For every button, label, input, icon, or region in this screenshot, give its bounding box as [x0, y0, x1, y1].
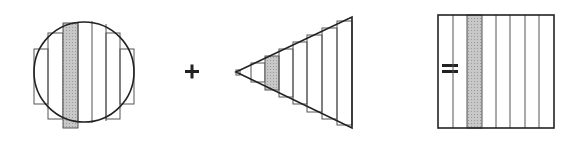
triangle-strip-2 [251, 63, 265, 82]
triangle-strip-8 [337, 21, 352, 125]
triangle-strip-4 [279, 49, 293, 97]
circle-outline [34, 22, 134, 122]
circle-strip-3-shaded [63, 23, 78, 128]
equals-sign [442, 64, 458, 73]
triangle-strip-6 [307, 35, 322, 112]
plus-sign [185, 65, 199, 79]
circle-strip-6 [106, 33, 120, 119]
circle-strip-2 [48, 33, 63, 119]
equation-diagram [0, 0, 582, 144]
triangle-strip-7 [322, 28, 337, 119]
triangle-strip-5 [293, 42, 307, 104]
triangle-outline [236, 17, 352, 128]
diagram-stage [0, 0, 582, 144]
circle-figure [34, 21, 134, 128]
triangle-figure [236, 17, 352, 128]
triangle-strip-3-shaded [265, 56, 279, 90]
square-strip-3-shaded [467, 15, 482, 128]
